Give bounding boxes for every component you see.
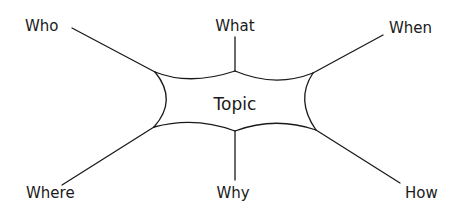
topic-shape-right-edge [305,73,316,130]
connector-who [72,28,155,72]
topic-label: Topic [213,94,257,114]
branch-label-why: Why [216,184,249,202]
connector-when [313,35,383,73]
branch-label-when: When [389,19,432,37]
branch-label-who: Who [25,17,59,35]
branch-label-where: Where [26,184,75,202]
topic-shape-bottom-right-edge [235,123,316,131]
connector-how [316,130,400,183]
branch-label-how: How [405,184,438,202]
topic-shape-bottom-left-edge [154,122,235,131]
connector-where [62,127,154,185]
five-w-mind-map-diagram: Topic Who What When Where Why How [0,0,462,224]
topic-shape-left-edge [154,72,166,127]
topic-shape-top-right-edge [235,71,313,80]
topic-shape-top-left-edge [155,71,235,79]
branch-label-what: What [215,17,255,35]
